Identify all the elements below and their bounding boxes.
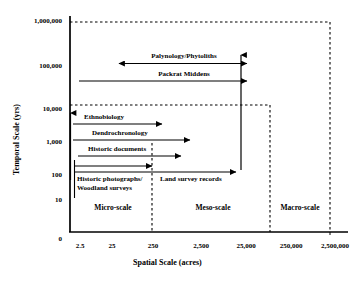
- y-tick-label-1000: 1,000: [14, 139, 62, 146]
- y-tick-label-1000000: 1,000,000: [14, 18, 62, 25]
- y-tick-label-0: 0: [14, 236, 62, 243]
- x-axis-title: Spatial Scale (acres): [133, 259, 202, 267]
- historic-photographs-woodland-surveys-label: Historic photographs/ Woodland surveys: [77, 175, 157, 193]
- historic-photographs-label-line-1: Historic photographs/: [77, 175, 143, 183]
- x-tick-label-25000: 25,000: [225, 243, 267, 250]
- historic-documents-label: Historic documents: [88, 146, 146, 153]
- meso-scale-region-label: Meso-scale: [182, 204, 244, 212]
- dendrochronology-label: Dendrochronology: [92, 130, 148, 137]
- land-survey-records-label: Land survey records: [160, 176, 222, 183]
- x-tick-label-250: 250: [136, 243, 170, 250]
- woodland-surveys-label-line-2: Woodland surveys: [77, 184, 132, 192]
- chart-figure: Temporal Scale (yrs) 1,000,000 100,000 1…: [0, 0, 357, 282]
- y-tick-label-100: 100: [14, 172, 62, 179]
- micro-scale-region-label: Micro-scale: [82, 204, 144, 212]
- x-tick-label-250000: 250,000: [268, 243, 314, 250]
- y-tick-label-10: 10: [14, 197, 62, 204]
- x-tick-label-2500: 2,500: [182, 243, 220, 250]
- packrat-middens-label: Packrat Middens: [134, 71, 234, 78]
- y-tick-label-100000: 100,000: [14, 63, 62, 70]
- x-tick-label-25: 25: [96, 243, 128, 250]
- y-tick-label-10000: 10,000: [14, 106, 62, 113]
- ethnobiology-label: Ethnobiology: [84, 114, 124, 121]
- x-tick-label-2-5: 2.5: [64, 243, 96, 250]
- palynology-phytoliths-label: Palynology/Phytoliths: [128, 53, 240, 60]
- x-tick-label-2500000: 2,500,000: [310, 243, 357, 250]
- macro-scale-region-label: Macro-scale: [270, 204, 330, 212]
